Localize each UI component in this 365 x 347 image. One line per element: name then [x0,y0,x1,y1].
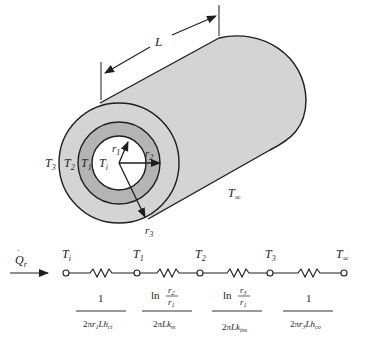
node-t2 [197,270,203,276]
node-label-t2: T2 [195,247,206,263]
resistance-conduction-insulation: ln r3 r1 2πLkins [212,285,262,333]
node-label-ti: Ti [62,247,71,263]
svg-text:1: 1 [306,292,312,304]
svg-text:r1: r1 [240,297,247,308]
resistance-convection-outer: 1 2πr3Lhco [283,292,333,330]
svg-text:r2: r2 [168,285,175,296]
node-label-t1: T1 [133,247,144,263]
t3-label: T3 [45,156,56,172]
resistance-convection-inner: 1 2πr1Lhci [76,292,126,330]
node-label-t3: T3 [265,247,276,263]
svg-text:1: 1 [98,292,104,304]
node-tinf [341,270,347,276]
svg-text:2πLkins: 2πLkins [222,322,248,333]
length-label: L [154,34,162,49]
thermal-resistance-diagram: L r1 r2 r3 T3 T2 T1 Ti T∞ Qr · Ti T1 T2 … [0,0,365,347]
resistance-conduction-metal: ln r2 r1 2πLkm [142,285,192,330]
svg-text:2πr3Lhco: 2πr3Lhco [290,319,321,330]
svg-text:2πLkm: 2πLkm [153,319,176,330]
svg-text:2πr1Lhci: 2πr1Lhci [83,319,113,330]
r3-label: r3 [145,224,153,239]
heat-flow-label: Qr [15,253,28,269]
svg-text:r1: r1 [168,297,175,308]
node-t3 [267,270,273,276]
svg-text:ln: ln [223,289,232,301]
thermal-circuit: Qr · Ti T1 T2 T3 T∞ 1 2πr1Lhci ln r2 r1 … [10,245,349,333]
svg-text:r3: r3 [240,285,247,296]
svg-text:ln: ln [151,289,160,301]
cylinder-end-face: r1 r2 r3 T3 T2 T1 Ti [45,103,179,239]
node-ti [63,270,69,276]
node-t1 [134,270,140,276]
ambient-temp-label: T∞ [228,186,241,202]
heat-flow-dot: · [17,245,20,255]
resistor-chain [68,269,341,277]
node-label-tinf: T∞ [336,247,349,263]
